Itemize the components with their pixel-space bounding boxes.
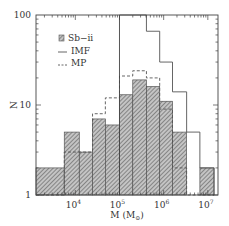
x-axis-label-close: ) [140, 210, 144, 220]
histogram-bar [119, 95, 132, 195]
histogram-bar [64, 132, 79, 195]
histogram-bar [200, 168, 214, 195]
legend-label-sb-ii: Sb−ii [68, 33, 93, 43]
legend-hatch-swatch [59, 35, 64, 41]
x-tick-label: 105 [110, 198, 125, 210]
y-tick-label: 100 [14, 10, 31, 20]
x-tick-exponent: 5 [121, 198, 125, 205]
y-tick-label: 10 [20, 100, 32, 110]
histogram-bar [105, 125, 119, 195]
y-tick-label: 1 [25, 190, 31, 200]
y-axis-label: N [9, 101, 19, 109]
histogram-bar [133, 80, 147, 195]
x-tick-exponent: 4 [77, 198, 81, 205]
legend-label-mp: MP [71, 58, 86, 68]
histogram-bar [146, 87, 159, 195]
x-axis-label: M (M⊙) [110, 210, 143, 221]
histogram-bar [173, 132, 187, 195]
histogram-bar [160, 101, 173, 195]
histogram-bar [36, 168, 64, 195]
legend-label-imf: IMF [71, 46, 90, 56]
x-tick-exponent: 7 [210, 198, 214, 205]
x-tick-label: 104 [66, 198, 81, 210]
histogram-chart: 104105106107110100 Sb−iiIMFMP M (M⊙) N [0, 0, 229, 226]
histogram-bar [79, 152, 92, 195]
x-tick-exponent: 6 [165, 198, 169, 205]
x-tick-label: 106 [154, 198, 169, 210]
sb-ii-hatched-histogram [36, 80, 214, 195]
histogram-bar [93, 119, 106, 195]
x-tick-label: 107 [198, 198, 213, 210]
legend: Sb−iiIMFMP [58, 33, 93, 68]
